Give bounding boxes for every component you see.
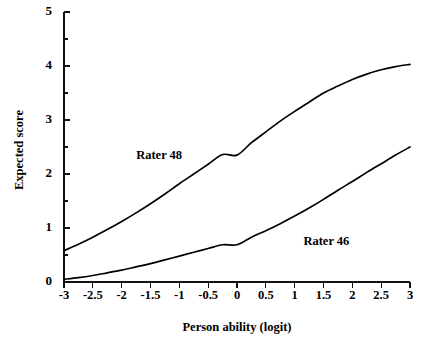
x-tick-label-2: -2 (116, 288, 126, 302)
x-tick-label-12: 3 (407, 288, 413, 302)
x-tick-label-8: 1 (292, 288, 298, 302)
y-tick-label-3: 3 (46, 111, 53, 126)
x-tick-label-6: 0 (234, 288, 240, 302)
chart-canvas: -3-2.5-2-1.5-1-0.500.511.522.53 012345 R… (0, 0, 423, 346)
y-tick-label-4: 4 (46, 57, 53, 72)
y-tick-label-0: 0 (46, 273, 53, 288)
expected-score-chart: -3-2.5-2-1.5-1-0.500.511.522.53 012345 R… (0, 0, 423, 346)
y-tick-label-5: 5 (46, 3, 53, 18)
x-tick-label-7: 0.5 (258, 288, 274, 302)
x-tick-label-9: 1.5 (316, 288, 332, 302)
x-axis-title: Person ability (logit) (182, 320, 291, 334)
x-tick-label-10: 2 (349, 288, 355, 302)
y-tick-label-1: 1 (46, 219, 53, 234)
x-tick-label-3: -1.5 (141, 288, 161, 302)
x-tick-label-4: -1 (174, 288, 184, 302)
x-tick-label-0: -3 (59, 288, 69, 302)
x-tick-label-11: 2.5 (373, 288, 389, 302)
x-tick-label-5: -0.5 (198, 288, 218, 302)
y-axis-title: Expected score (12, 110, 26, 190)
x-tick-label-1: -2.5 (83, 288, 103, 302)
y-tick-label-2: 2 (46, 165, 53, 180)
series-label-rater-46: Rater 46 (303, 234, 349, 248)
series-label-rater-48: Rater 48 (136, 148, 182, 162)
